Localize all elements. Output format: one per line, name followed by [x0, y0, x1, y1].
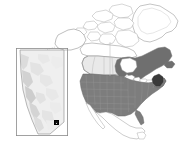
- alberta-relief-inset: [16, 48, 68, 136]
- map-figure: [0, 0, 182, 151]
- region-alaska: [55, 29, 86, 50]
- study-site-marker: [54, 120, 59, 125]
- alberta-inset-svg: [16, 48, 68, 136]
- region-greenland: [132, 4, 178, 42]
- usa-florida-peninsula: [135, 110, 144, 125]
